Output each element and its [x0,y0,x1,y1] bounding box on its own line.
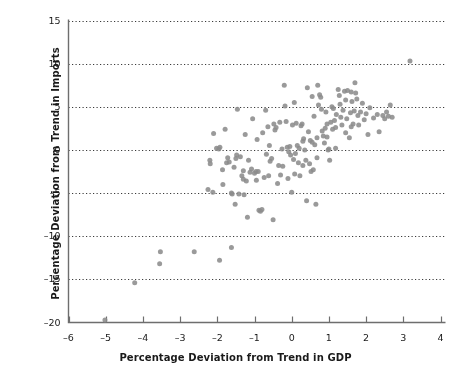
y-tick-label: –15 [23,273,61,284]
y-tick-label: 10 [23,58,61,69]
x-tick-label: –1 [240,332,270,343]
x-tick-label: 1 [314,332,344,343]
y-tick-label: 15 [23,15,61,26]
x-axis-title: Percentage Deviation from Trend in GDP [0,352,471,363]
x-tick-label: –3 [165,332,195,343]
x-tick-label: –2 [202,332,232,343]
y-tick-label: –20 [23,317,61,328]
x-tick-label: 4 [426,332,456,343]
x-tick-label: –6 [54,332,84,343]
y-tick-label: 5 [23,101,61,112]
y-tick-label: –5 [23,187,61,198]
y-tick-label: 0 [23,144,61,155]
x-tick-label: 0 [277,332,307,343]
scatter-plot-figure: Percentage Deviation from Trend in GDP P… [0,0,471,381]
x-tick-label: –5 [91,332,121,343]
x-tick-label: –4 [128,332,158,343]
y-tick-label: –10 [23,230,61,241]
plot-area-canvas [0,0,471,381]
x-tick-label: 3 [388,332,418,343]
x-tick-label: 2 [351,332,381,343]
